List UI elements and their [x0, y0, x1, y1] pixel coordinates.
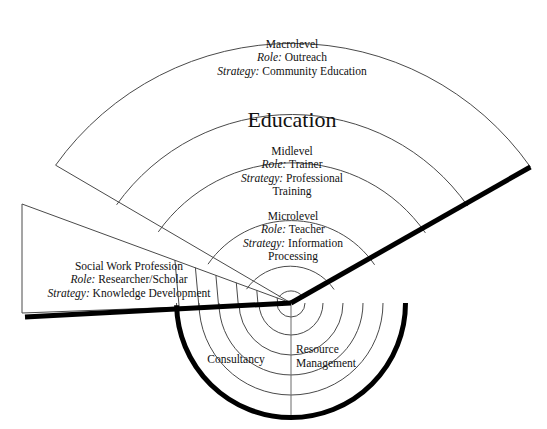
midlevel-strategy-label: Strategy:	[241, 172, 283, 184]
sector-label-microlevel: Microlevel Role: Teacher Strategy: Infor…	[214, 210, 372, 263]
macrolevel-strategy: Strategy: Community Education	[185, 65, 399, 78]
swp-role: Role: Researcher/Scholar	[18, 273, 240, 286]
resource-management-line2: Management	[296, 357, 356, 369]
microlevel-role-value: Teacher	[289, 223, 325, 235]
midlevel-role-value: Trainer	[289, 158, 322, 170]
macrolevel-strategy-value: Community Education	[262, 65, 366, 77]
education-fan-diagram: Macrolevel Role: Outreach Strategy: Comm…	[0, 0, 547, 429]
midlevel-role: Role: Trainer	[202, 158, 382, 171]
resource-management-line1: Resource	[296, 343, 339, 355]
macrolevel-role: Role: Outreach	[185, 51, 399, 64]
swp-strategy: Strategy: Knowledge Development	[18, 287, 240, 300]
microlevel-role-label: Role:	[261, 223, 286, 235]
sector-label-midlevel: Midlevel Role: Trainer Strategy: Profess…	[202, 145, 382, 198]
midlevel-strategy-value: Professional	[286, 172, 343, 184]
center-title-education: Education	[192, 107, 392, 133]
midlevel-strategy: Strategy: Professional	[202, 172, 382, 185]
microlevel-strategy-label: Strategy:	[243, 237, 285, 249]
midlevel-role-label: Role:	[261, 158, 286, 170]
swp-strategy-label: Strategy:	[48, 287, 90, 299]
bold-edge-wedge-bottom	[25, 303, 291, 317]
swp-strategy-value: Knowledge Development	[93, 287, 211, 299]
swp-role-value: Researcher/Scholar	[98, 273, 187, 285]
lower-label-resource-management: Resource Management	[296, 342, 392, 370]
macrolevel-strategy-label: Strategy:	[217, 65, 259, 77]
microlevel-strategy: Strategy: Information	[214, 237, 372, 250]
midlevel-title: Midlevel	[202, 145, 382, 158]
macrolevel-role-label: Role:	[257, 51, 282, 63]
microlevel-title: Microlevel	[214, 210, 372, 223]
microlevel-strategy-value: Information	[288, 237, 343, 249]
microlevel-role: Role: Teacher	[214, 223, 372, 236]
midlevel-strategy-cont: Training	[202, 185, 382, 198]
lower-label-consultancy: Consultancy	[188, 352, 284, 366]
macrolevel-title: Macrolevel	[185, 38, 399, 51]
wedge-seg-2	[257, 290, 258, 304]
sector-label-social-work-profession: Social Work Profession Role: Researcher/…	[18, 260, 240, 300]
swp-title: Social Work Profession	[18, 260, 240, 273]
swp-role-label: Role:	[70, 273, 95, 285]
sector-label-macrolevel: Macrolevel Role: Outreach Strategy: Comm…	[185, 38, 399, 78]
macrolevel-role-value: Outreach	[285, 51, 327, 63]
